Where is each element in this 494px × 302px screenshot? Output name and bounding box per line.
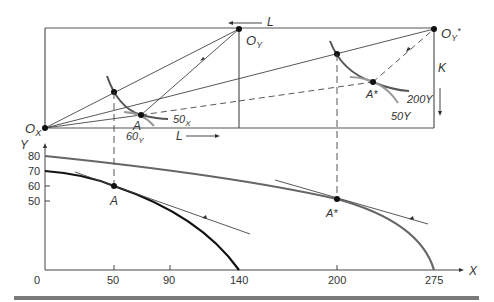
labor-label-top: L	[267, 15, 274, 29]
origin-oy-dot	[236, 26, 242, 32]
labor-label-bottom: L	[176, 129, 183, 143]
y-tick-label: 60	[28, 180, 40, 192]
isoquant-60y-label: 60Y	[126, 130, 144, 145]
point-a-dot	[111, 183, 117, 189]
price-line-a	[75, 172, 250, 234]
x-tick-label: 275	[425, 274, 443, 286]
edgeworth-box: OX OY OY* L L K A A* 50X 60Y 200Y 50Y	[25, 15, 461, 145]
x-axis-label: X	[468, 264, 478, 278]
x-tick-label: 200	[328, 274, 346, 286]
ppf-chart: A A* Y X 80 70 60 50 0 50 90 140 200 275	[20, 138, 478, 286]
ray-extension-dashed	[141, 101, 239, 115]
origin-oystar-label: OY*	[441, 26, 461, 43]
y-tick-label: 50	[28, 195, 40, 207]
isoquant-50x-label: 50X	[173, 113, 191, 128]
direction-arrow-icon	[200, 57, 205, 61]
point-a-box	[138, 112, 144, 118]
price-line-a-star	[275, 180, 428, 224]
ray-ox-astar-dashed	[239, 82, 373, 101]
point-a-star-label: A*	[365, 88, 378, 100]
isoquant-200y	[330, 41, 409, 91]
point-a-star-box	[370, 79, 376, 85]
x-tick-label: 90	[163, 274, 175, 286]
ray-ox-a	[45, 115, 141, 128]
ppf-point-a-label: A	[109, 194, 118, 208]
isoquant-50x	[107, 76, 168, 119]
edgeworth-box-diagram: OX OY OY* L L K A A* 50X 60Y 200Y 50Y	[0, 0, 494, 302]
point-a-star-dot	[334, 196, 340, 202]
ppf-point-a-star-label: A*	[325, 207, 338, 219]
origin-ox-label: OX	[25, 121, 42, 138]
capital-label: K	[438, 61, 447, 75]
origin-ox-dot	[42, 125, 48, 131]
y-tick-label: 70	[28, 165, 40, 177]
bottom-rule	[14, 296, 479, 300]
x-tick-label: 140	[230, 274, 248, 286]
x-tick-label: 50	[107, 274, 119, 286]
ppf-expanded	[45, 156, 434, 270]
isoquant-50y-label: 50Y	[391, 110, 411, 122]
direction-arrow-icon	[409, 216, 414, 220]
x-tick-label: 0	[34, 274, 40, 286]
origin-oy-label: OY	[246, 33, 263, 50]
direction-arrow-icon	[406, 47, 411, 52]
origin-oystar-dot	[431, 26, 437, 32]
y-tick-label: 80	[28, 150, 40, 162]
ppf-initial	[45, 171, 239, 270]
isoquant-200y-label: 200Y	[406, 93, 433, 105]
